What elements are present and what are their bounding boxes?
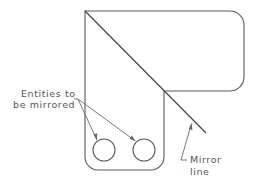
mirror-diagram: Entities to be mirrored Mirror line <box>0 0 255 186</box>
entities-arrow-right-icon <box>130 136 137 142</box>
hole-left-circle <box>93 139 115 161</box>
mirror-arrow-icon <box>189 123 193 131</box>
entities-leader-left <box>78 99 96 138</box>
entities-leader-right <box>78 99 134 140</box>
mirror-line <box>85 11 206 133</box>
entities-label-line1: Entities to <box>21 88 76 99</box>
mirror-label-line1: Mirror <box>190 154 222 165</box>
entities-label-line2: be mirrored <box>13 99 75 110</box>
hole-right-circle <box>133 139 155 161</box>
entities-arrow-left-icon <box>94 133 98 141</box>
mirror-label-line2: line <box>190 166 210 177</box>
